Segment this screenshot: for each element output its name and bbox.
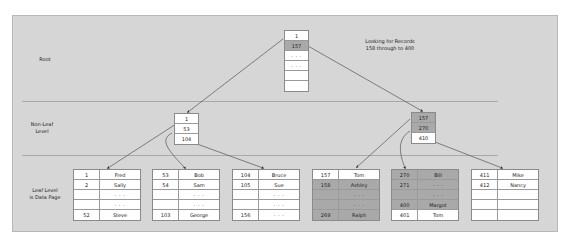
leaf-row (472, 210, 538, 220)
record-value (498, 200, 538, 209)
leaf-row: · · · (233, 190, 299, 200)
record-value: Bob (179, 170, 219, 179)
leaf-page-5: 270Bill 271· · · · · · 400Margot 401Tom (391, 169, 459, 221)
link-root-to-nonleaf-right (308, 46, 422, 111)
record-value: · · · (259, 200, 299, 209)
record-key: 54 (153, 180, 179, 189)
record-value: Ralph (339, 210, 379, 220)
leaf-row: 103George (153, 210, 219, 220)
root-cell (285, 71, 308, 81)
leaf-row: · · · (153, 190, 219, 200)
record-key (472, 200, 498, 209)
leaf-row: 52Steve (74, 210, 140, 220)
leaf-page-6: 411Mike 412Nancy (471, 169, 539, 221)
record-key (472, 190, 498, 199)
leaf-row-match: · · · (313, 200, 379, 210)
leaf-row (472, 190, 538, 200)
record-key: 156 (233, 210, 259, 220)
leaf-row: 412Nancy (472, 180, 538, 190)
record-value: · · · (339, 200, 379, 209)
leaf-row-match: 271· · · (392, 180, 458, 190)
leaf-row: 54Sam (153, 180, 219, 190)
record-key (313, 190, 339, 199)
record-key (74, 190, 100, 199)
record-key (233, 190, 259, 199)
leaf-row: · · · (153, 200, 219, 210)
record-value: Nancy (498, 180, 538, 189)
record-value: George (179, 210, 219, 220)
record-key: 412 (472, 180, 498, 189)
record-value: · · · (339, 190, 379, 199)
record-value: · · · (100, 200, 140, 209)
record-key: 52 (74, 210, 100, 220)
record-value (498, 190, 538, 199)
leaf-row: 401Tom (392, 210, 458, 220)
record-value: Tom (418, 210, 458, 220)
leaf-page-3: 104Bruce 105Sue · · · · · · 156· · · (232, 169, 300, 221)
leaf-row-match: 158Ashley (313, 180, 379, 190)
non-leaf-cell: 157 (412, 113, 435, 123)
record-key: 401 (392, 210, 418, 220)
leaf-row: 104Bruce (233, 170, 299, 180)
leaf-row-match: 270Bill (392, 170, 458, 180)
leaf-row: 411Mike (472, 170, 538, 180)
record-value: · · · (179, 200, 219, 209)
record-value: · · · (418, 190, 458, 199)
record-key (392, 190, 418, 199)
leaf-row: · · · (233, 200, 299, 210)
leaf-row: 1Fred (74, 170, 140, 180)
record-value: Fred (100, 170, 140, 179)
non-leaf-cell: 410 (412, 133, 435, 143)
record-value: · · · (179, 190, 219, 199)
non-leaf-node-right: 157 270 410 (411, 112, 436, 144)
record-value: · · · (259, 190, 299, 199)
leaf-row: 2Sally (74, 180, 140, 190)
record-key (313, 200, 339, 209)
record-value: Steve (100, 210, 140, 220)
leaf-row: 105Sue (233, 180, 299, 190)
record-key: 158 (313, 180, 339, 189)
root-cell (285, 81, 308, 91)
leaf-row: 53Bob (153, 170, 219, 180)
record-value: Sue (259, 180, 299, 189)
record-key (153, 190, 179, 199)
leaf-row-match: 400Margot (392, 200, 458, 210)
non-leaf-cell: 1 (175, 114, 198, 124)
record-value: Tom (339, 170, 379, 179)
record-key (74, 200, 100, 209)
record-key: 105 (233, 180, 259, 189)
leaf-row: 157Tom (313, 170, 379, 180)
record-key: 269 (313, 210, 339, 220)
record-key (153, 200, 179, 209)
leaf-page-2: 53Bob 54Sam · · · · · · 103George (152, 169, 220, 221)
record-value: Margot (418, 200, 458, 209)
leaf-page-4: 157Tom 158Ashley · · · · · · 269Ralph (312, 169, 380, 221)
root-cell: 1 (285, 31, 308, 41)
leaf-row: 156· · · (233, 210, 299, 220)
root-cell: · · · (285, 51, 308, 61)
record-key: 104 (233, 170, 259, 179)
record-key: 157 (313, 170, 339, 179)
leaf-row-match: · · · (313, 190, 379, 200)
leaf-row (472, 200, 538, 210)
record-key: 2 (74, 180, 100, 189)
record-key: 411 (472, 170, 498, 179)
root-cell: 157 (285, 41, 308, 51)
leaf-row: · · · (74, 190, 140, 200)
non-leaf-cell: 53 (175, 124, 198, 134)
non-leaf-node-left: 1 53 104 (174, 113, 199, 145)
non-leaf-cell: 104 (175, 134, 198, 144)
record-key: 103 (153, 210, 179, 220)
record-value: · · · (418, 180, 458, 189)
record-key: 1 (74, 170, 100, 179)
record-key: 400 (392, 200, 418, 209)
record-key: 271 (392, 180, 418, 189)
leaf-row-match: 269Ralph (313, 210, 379, 220)
record-value: Sam (179, 180, 219, 189)
non-leaf-cell: 270 (412, 123, 435, 133)
record-value (498, 210, 538, 220)
record-value: · · · (100, 190, 140, 199)
record-value: Sally (100, 180, 140, 189)
root-node: 1 157 · · · · · · (284, 30, 309, 92)
record-key (233, 200, 259, 209)
